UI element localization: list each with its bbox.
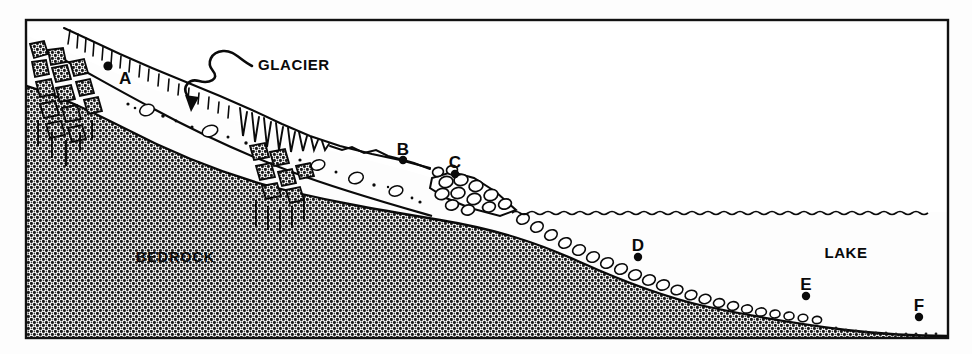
angular-block	[52, 65, 71, 82]
angular-block	[36, 79, 55, 97]
angular-block	[56, 85, 75, 102]
point-e[interactable]: E	[800, 275, 811, 300]
bedrock-label: BEDROCK	[136, 249, 215, 265]
angular-block	[278, 169, 296, 186]
angular-block	[32, 60, 49, 77]
angular-block	[76, 79, 94, 96]
angular-block	[296, 163, 314, 179]
angular-block	[286, 187, 304, 203]
angular-block	[48, 48, 66, 65]
angular-block	[262, 183, 281, 199]
angular-block	[30, 41, 48, 58]
angular-block	[62, 105, 81, 122]
angular-block	[46, 121, 65, 138]
angular-block	[84, 97, 102, 114]
angular-block	[40, 101, 59, 118]
glacier-label: GLACIER	[258, 56, 330, 73]
point-d-label: D	[632, 236, 644, 255]
angular-block	[256, 163, 275, 180]
lake-label: LAKE	[824, 244, 867, 261]
point-c-label: C	[449, 153, 461, 172]
point-f[interactable]: F	[914, 296, 924, 321]
point-e-label: E	[800, 275, 811, 294]
glacier-diagram-figure: GLACIER BEDROCK LAKE A B C	[0, 0, 972, 354]
point-b-label: B	[397, 140, 409, 159]
point-a-dot[interactable]	[103, 61, 112, 70]
point-f-label: F	[914, 296, 924, 315]
diagram-canvas: GLACIER BEDROCK LAKE A B C	[0, 0, 972, 354]
diagram-interior: GLACIER BEDROCK LAKE A B C	[27, 24, 947, 337]
angular-block	[250, 143, 269, 160]
point-a-label: A	[119, 69, 131, 88]
angular-block	[68, 125, 86, 142]
angular-block	[270, 149, 289, 166]
angular-block	[70, 59, 88, 76]
